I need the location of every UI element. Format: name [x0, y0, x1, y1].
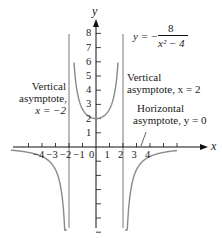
label-line: Vertical — [127, 71, 200, 83]
x-tick-label: 1 — [105, 149, 110, 160]
curve-branch — [11, 150, 67, 230]
y-tick-label: 5 — [86, 70, 91, 81]
horizontal-asymptote-pointer — [141, 132, 146, 146]
x-tick-label: −3 — [47, 149, 58, 160]
y-axis — [93, 19, 101, 232]
y-tick-label: 6 — [86, 56, 91, 67]
x-tick-label: −1 — [74, 149, 85, 160]
curve-branch — [125, 151, 177, 230]
vertical-asymptote-right-label: Vertical asymptote, x = 2 — [127, 71, 200, 95]
x-tick-label: 2 — [118, 149, 123, 160]
x-tick-label: 4 — [145, 149, 150, 160]
x-tick-label: 0 — [89, 149, 94, 160]
label-line: asymptote, x = 2 — [127, 83, 200, 95]
equation-denominator: x² − 4 — [158, 37, 185, 49]
y-tick-label: 2 — [86, 113, 91, 124]
label-line: Horizontal — [133, 102, 206, 114]
y-tick-label: 4 — [86, 84, 91, 95]
label-line: Vertical — [19, 80, 66, 92]
label-line: asymptote, y = 0 — [133, 114, 206, 126]
x-tick-label: −2 — [60, 149, 71, 160]
y-tick-label: 3 — [86, 98, 91, 109]
x-axis-arrow-icon — [200, 144, 208, 150]
fraction-bar — [158, 35, 188, 36]
horizontal-asymptote-label: Horizontal asymptote, y = 0 — [133, 102, 206, 126]
y-tick-label: 8 — [86, 27, 91, 38]
equation-lhs: y = − — [133, 30, 158, 42]
y-tick-label: 7 — [86, 42, 91, 53]
label-line: asymptote, — [19, 92, 66, 104]
y-axis-arrow-icon — [93, 19, 99, 27]
x-tick-label: 3 — [132, 149, 137, 160]
equation-numerator: 8 — [168, 22, 174, 34]
label-line: x = −2 — [19, 104, 66, 116]
y-tick-label: 1 — [86, 127, 91, 138]
y-axis-label: y — [92, 5, 97, 17]
x-tick-label: −4 — [33, 149, 44, 160]
vertical-asymptote-left-label: Vertical asymptote, x = −2 — [19, 80, 66, 116]
x-axis-label: x — [211, 140, 216, 152]
